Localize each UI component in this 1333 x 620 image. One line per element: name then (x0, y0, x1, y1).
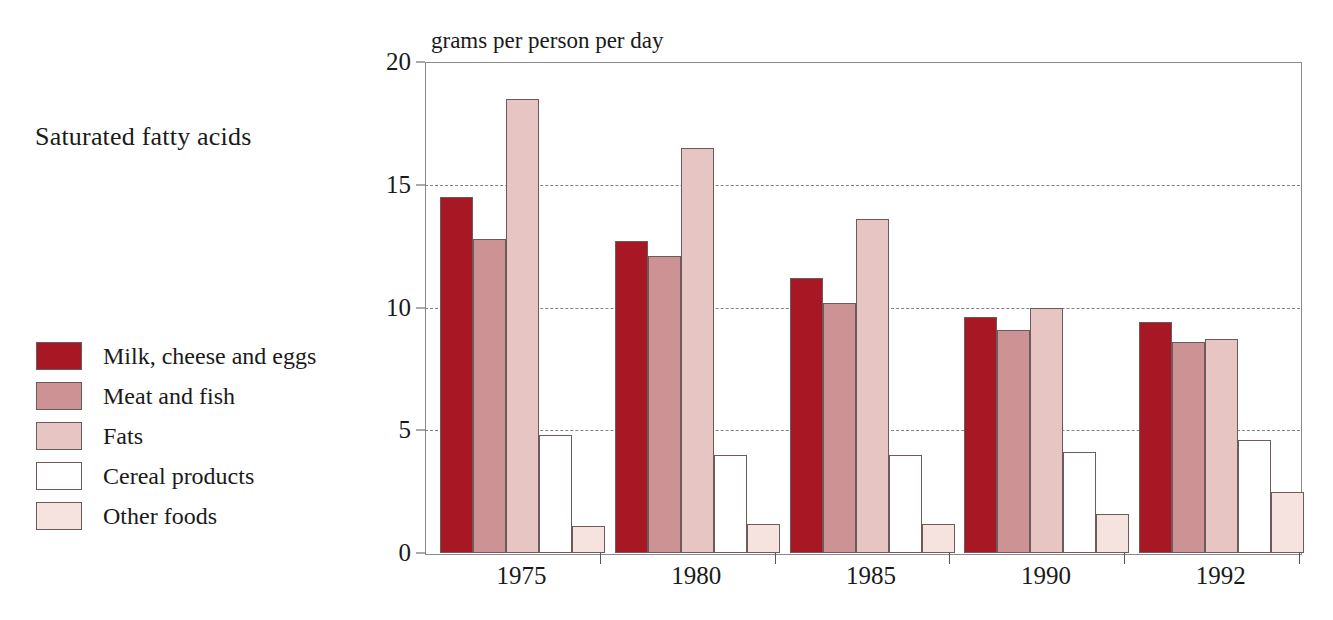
bar (823, 303, 856, 553)
bar (506, 99, 539, 553)
y-tick-mark (416, 62, 425, 63)
y-tick-mark (416, 184, 425, 185)
y-tick-label: 10 (386, 294, 411, 322)
bar (648, 256, 681, 553)
bar (1238, 440, 1271, 553)
x-tick-label: 1980 (671, 562, 721, 590)
bar (1096, 514, 1129, 553)
x-tick-label: 1990 (1021, 562, 1071, 590)
x-tick-mark (1124, 553, 1125, 564)
x-tick-mark (600, 553, 601, 564)
bar (681, 148, 714, 553)
bar (539, 435, 572, 553)
bar (1172, 342, 1205, 553)
bar (1271, 492, 1304, 553)
bar (1205, 339, 1238, 553)
bar (1063, 452, 1096, 553)
bar (856, 219, 889, 553)
bar (572, 526, 605, 553)
x-tick-label: 1992 (1196, 562, 1246, 590)
bar (615, 241, 648, 553)
chart-plot: grams per person per day 05101520 197519… (0, 0, 1333, 620)
bar (997, 330, 1030, 553)
bar (440, 197, 473, 553)
y-tick-label: 0 (399, 539, 412, 567)
x-tick-mark (949, 553, 950, 564)
y-tick-mark (416, 430, 425, 431)
bars-layer (426, 63, 1300, 553)
bar (964, 317, 997, 553)
bar (790, 278, 823, 553)
axis-title: grams per person per day (431, 28, 663, 54)
bar (889, 455, 922, 553)
bar (714, 455, 747, 553)
x-tick-mark (775, 553, 776, 564)
y-tick-label: 20 (386, 48, 411, 76)
y-tick-label: 5 (399, 416, 412, 444)
bar (922, 524, 955, 553)
y-tick-mark (416, 307, 425, 308)
y-tick-mark (416, 553, 425, 554)
bar (1030, 308, 1063, 554)
bar (1139, 322, 1172, 553)
y-tick-label: 15 (386, 171, 411, 199)
x-tick-mark (1299, 553, 1300, 564)
bar (747, 524, 780, 553)
x-tick-label: 1985 (846, 562, 896, 590)
bar (473, 239, 506, 553)
x-tick-label: 1975 (497, 562, 547, 590)
